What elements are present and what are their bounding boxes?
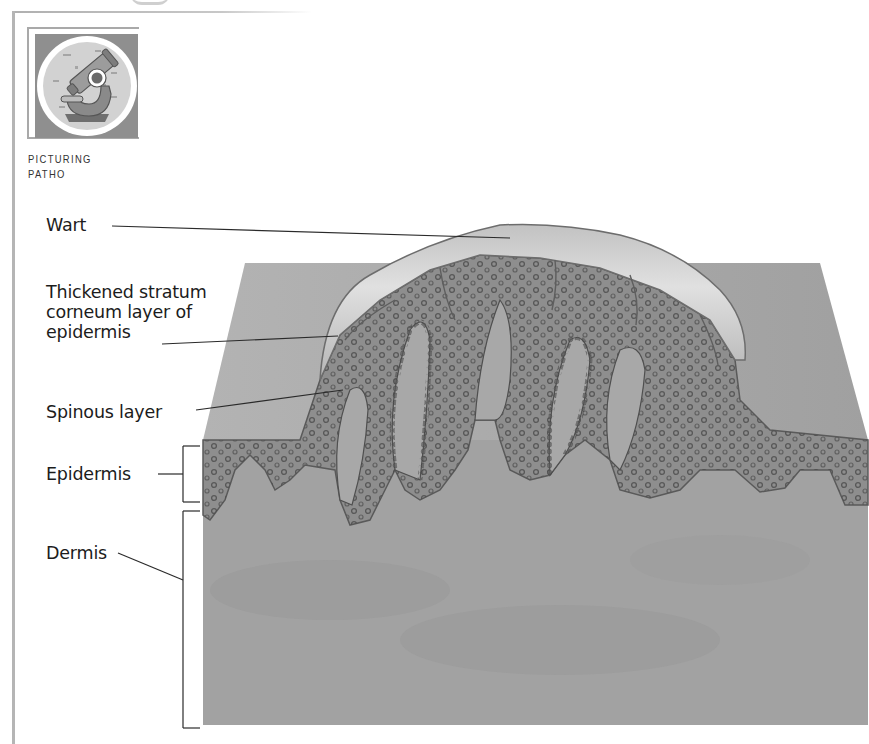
dermis-leader-line	[118, 553, 183, 580]
label-stratum-line2: corneum layer of	[46, 302, 276, 322]
label-stratum-line1: Thickened stratum	[46, 282, 276, 302]
label-wart: Wart	[46, 215, 86, 235]
wart-leader-line	[112, 226, 510, 238]
label-thickened-stratum-corneum: Thickened stratum corneum layer of epide…	[46, 282, 276, 342]
label-dermis: Dermis	[46, 543, 107, 563]
wart-cross-section-illustration	[0, 0, 869, 744]
label-spinous-layer: Spinous layer	[46, 402, 162, 422]
label-epidermis: Epidermis	[46, 464, 131, 484]
label-stratum-line3: epidermis	[46, 322, 276, 342]
